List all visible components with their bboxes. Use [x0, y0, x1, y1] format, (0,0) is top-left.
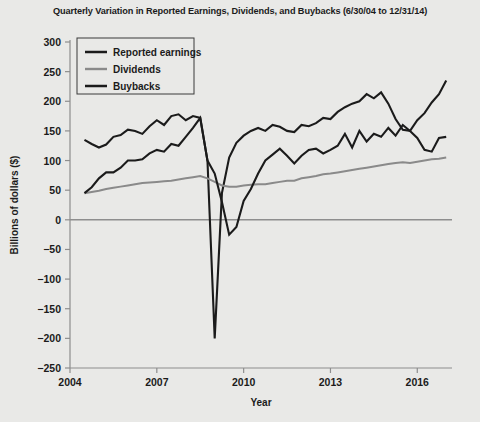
- y-tick-label: 200: [43, 95, 61, 107]
- x-tick-label: 2004: [58, 376, 82, 388]
- y-tick-label: 50: [49, 184, 61, 196]
- series-line-reported-earnings: [84, 81, 446, 339]
- y-tick-label: −50: [43, 243, 61, 255]
- x-tick-label: 2010: [232, 376, 256, 388]
- y-tick-label: −100: [37, 273, 61, 285]
- y-tick-label: 150: [43, 125, 61, 137]
- legend-label-dividends: Dividends: [113, 64, 161, 75]
- y-tick-label: 300: [43, 36, 61, 48]
- y-tick-label: 100: [43, 155, 61, 167]
- legend-label-buybacks: Buybacks: [113, 81, 161, 92]
- x-tick-label: 2016: [406, 376, 430, 388]
- chart-figure: Quarterly Variation in Reported Earnings…: [0, 0, 480, 422]
- x-axis-label: Year: [250, 397, 271, 408]
- series-line-buybacks: [84, 118, 446, 235]
- y-tick-label: 250: [43, 66, 61, 78]
- x-tick-label: 2013: [319, 376, 343, 388]
- chart-plot: 300250200150100500−50−100−150−200−250200…: [0, 0, 480, 422]
- y-tick-label: −200: [37, 332, 61, 344]
- y-tick-label: −150: [37, 303, 61, 315]
- y-tick-label: −250: [37, 362, 61, 374]
- y-axis-label: Billions of dollars ($): [9, 156, 20, 255]
- series-line-dividends: [84, 158, 446, 194]
- y-tick-label: 0: [55, 214, 61, 226]
- legend-label-reported-earnings: Reported earnings: [113, 47, 202, 58]
- x-tick-label: 2007: [145, 376, 169, 388]
